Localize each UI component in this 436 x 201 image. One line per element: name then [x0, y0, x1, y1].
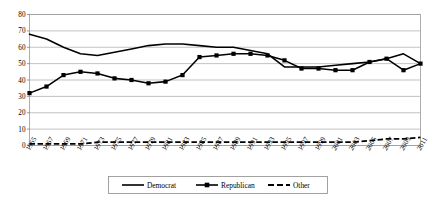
- y-axis-tick-labels: 01020304050607080: [18, 11, 26, 150]
- y-tick-label-10: 10: [18, 126, 26, 134]
- series-marker-republican-1997: [299, 66, 303, 70]
- x-tick-label-2001: 2001: [330, 135, 344, 152]
- gridlines: [30, 15, 421, 146]
- series-marker-republican-2011: [418, 62, 422, 66]
- x-tick-label-1999: 1999: [313, 135, 327, 152]
- x-axis-tick-labels: 1965196719691971197319751977197919811983…: [24, 135, 429, 152]
- series-marker-republican-1985: [197, 55, 201, 59]
- legend-label-democrat: Democrat: [147, 181, 177, 190]
- x-tick-label-1983: 1983: [177, 135, 191, 152]
- x-tick-label-1989: 1989: [228, 135, 242, 152]
- series-marker-republican-1973: [95, 71, 99, 75]
- x-tick-label-1997: 1997: [296, 135, 310, 152]
- legend-label-republican: Republican: [221, 181, 255, 190]
- y-tick-label-30: 30: [18, 93, 26, 101]
- chart-legend: DemocratRepublicanOther: [109, 177, 328, 194]
- series-marker-republican-2005: [367, 60, 371, 64]
- x-tick-label-2011: 2011: [415, 135, 429, 152]
- series-line-republican: [30, 54, 421, 93]
- series-marker-republican-1981: [163, 80, 167, 84]
- series-marker-republican-1999: [316, 66, 320, 70]
- y-tick-label-70: 70: [18, 27, 26, 35]
- x-tick-label-1981: 1981: [160, 135, 174, 152]
- series-marker-republican-1969: [61, 73, 65, 77]
- x-tick-label-2003: 2003: [347, 135, 361, 152]
- x-tick-label-1995: 1995: [279, 135, 293, 152]
- series-marker-republican-1989: [231, 52, 235, 56]
- series-marker-republican-1967: [44, 84, 48, 88]
- series-marker-republican-1979: [146, 81, 150, 85]
- series-marker-republican-2003: [350, 68, 354, 72]
- y-tick-label-80: 80: [18, 11, 26, 19]
- x-tick-label-1991: 1991: [245, 135, 259, 152]
- series-marker-republican-1983: [180, 73, 184, 77]
- series-marker-republican-1965: [27, 91, 31, 95]
- line-chart: 01020304050607080 1965196719691971197319…: [0, 0, 436, 201]
- legend-label-other: Other: [293, 181, 310, 190]
- x-tick-label-1979: 1979: [143, 135, 157, 152]
- series-marker-republican-2009: [401, 68, 405, 72]
- series-marker-republican-1995: [282, 58, 286, 62]
- series-marker-republican-1971: [78, 70, 82, 74]
- legend-marker-republican: [205, 183, 210, 188]
- series-line-democrat: [30, 34, 421, 67]
- x-tick-label-1993: 1993: [262, 135, 276, 152]
- y-tick-label-60: 60: [18, 44, 26, 52]
- series-marker-republican-2001: [333, 68, 337, 72]
- x-tick-label-1973: 1973: [92, 135, 106, 152]
- y-tick-label-20: 20: [18, 109, 26, 117]
- x-tick-label-2007: 2007: [381, 135, 395, 152]
- x-tick-label-1987: 1987: [211, 135, 225, 152]
- x-tick-label-1977: 1977: [126, 135, 140, 152]
- series-marker-republican-1987: [214, 53, 218, 57]
- y-tick-label-40: 40: [18, 77, 26, 85]
- y-tick-label-50: 50: [18, 60, 26, 68]
- series-marker-republican-1991: [248, 52, 252, 56]
- chart-container: 01020304050607080 1965196719691971197319…: [0, 0, 436, 201]
- x-tick-label-1985: 1985: [194, 135, 208, 152]
- series-marker-republican-1977: [129, 78, 133, 82]
- series-marker-republican-1993: [265, 53, 269, 57]
- x-tick-label-1975: 1975: [109, 135, 123, 152]
- series-marker-republican-2007: [384, 57, 388, 61]
- x-tick-label-2005: 2005: [364, 135, 378, 152]
- data-series-layer: [27, 34, 422, 144]
- series-marker-republican-1975: [112, 76, 116, 80]
